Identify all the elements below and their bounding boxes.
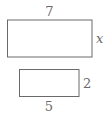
large-rect-height-label: x <box>96 31 104 46</box>
large-rectangle <box>8 20 93 57</box>
rectangles-diagram: 7 x 2 5 <box>0 0 107 116</box>
small-rectangle <box>20 70 80 97</box>
small-rect-width-label: 5 <box>45 99 53 114</box>
large-rect-width-label: 7 <box>45 4 53 19</box>
small-rect-height-label: 2 <box>83 76 91 91</box>
